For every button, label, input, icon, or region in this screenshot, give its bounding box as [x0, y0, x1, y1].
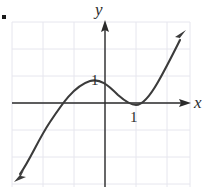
y-axis-tick-label-1: 1 — [91, 73, 99, 88]
x-axis-label: x — [194, 94, 202, 111]
figure-screenshot: y x 1 1 — [0, 0, 210, 187]
grid-lines — [12, 22, 190, 187]
curve-series — [14, 30, 186, 182]
x-axis-tick-label-1: 1 — [130, 110, 138, 125]
x-axis — [12, 99, 191, 107]
y-axis-label: y — [95, 1, 103, 18]
graph-canvas — [0, 0, 210, 187]
